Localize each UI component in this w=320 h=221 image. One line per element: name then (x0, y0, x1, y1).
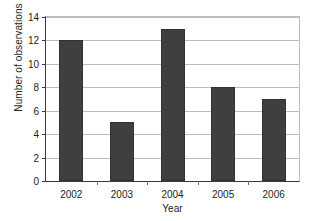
x-axis-title: Year (45, 203, 300, 214)
gridline (46, 17, 299, 18)
x-axis-tick-label: 2003 (111, 189, 133, 200)
bar-2005 (211, 87, 235, 181)
bar-chart-figure: Number of observations 02468101214200220… (0, 0, 320, 221)
plot-area: 0246810121420022003200420052006 (45, 16, 300, 182)
y-axis-tick (42, 158, 46, 159)
y-axis-tick-label: 12 (28, 35, 39, 46)
y-axis-tick (42, 64, 46, 65)
x-axis-tick-label: 2006 (263, 189, 285, 200)
y-axis-tick (42, 111, 46, 112)
bar-2002 (59, 40, 83, 181)
bar-2004 (161, 29, 185, 181)
y-axis-tick-label: 4 (33, 129, 39, 140)
y-axis-tick-label: 0 (33, 176, 39, 187)
y-axis-title: Number of observations (13, 0, 24, 138)
y-axis-tick (42, 134, 46, 135)
y-axis-tick-label: 8 (33, 82, 39, 93)
y-axis-tick (42, 40, 46, 41)
bar-2003 (110, 122, 134, 181)
x-axis-tick (248, 181, 249, 185)
y-axis-tick-label: 10 (28, 58, 39, 69)
x-axis-tick (198, 181, 199, 185)
x-axis-tick-label: 2002 (60, 189, 82, 200)
x-axis-tick (147, 181, 148, 185)
bar-2006 (262, 99, 286, 181)
y-axis-tick (42, 87, 46, 88)
y-axis-tick-label: 14 (28, 12, 39, 23)
x-axis-tick-label: 2004 (161, 189, 183, 200)
y-axis-tick (42, 181, 46, 182)
y-axis-tick-label: 2 (33, 152, 39, 163)
y-axis-tick-label: 6 (33, 105, 39, 116)
y-axis-tick (42, 17, 46, 18)
x-axis-tick-label: 2005 (212, 189, 234, 200)
x-axis-tick (97, 181, 98, 185)
